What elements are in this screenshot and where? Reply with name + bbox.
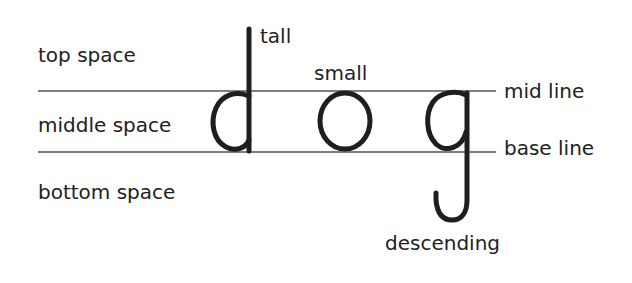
letter-o-glyph xyxy=(320,93,370,149)
middle-space-label: middle space xyxy=(38,115,171,135)
top-space-label: top space xyxy=(38,45,136,65)
base-line-label: base line xyxy=(504,138,594,158)
small-label: small xyxy=(314,63,367,83)
descending-label: descending xyxy=(385,233,500,253)
letter-d-glyph xyxy=(213,29,249,151)
mid-line-label: mid line xyxy=(504,81,584,101)
bottom-space-label: bottom space xyxy=(38,182,175,202)
tall-label: tall xyxy=(260,26,291,46)
letter-g-glyph xyxy=(428,92,467,220)
handwriting-lines-diagram: top space middle space bottom space tall… xyxy=(0,0,632,283)
